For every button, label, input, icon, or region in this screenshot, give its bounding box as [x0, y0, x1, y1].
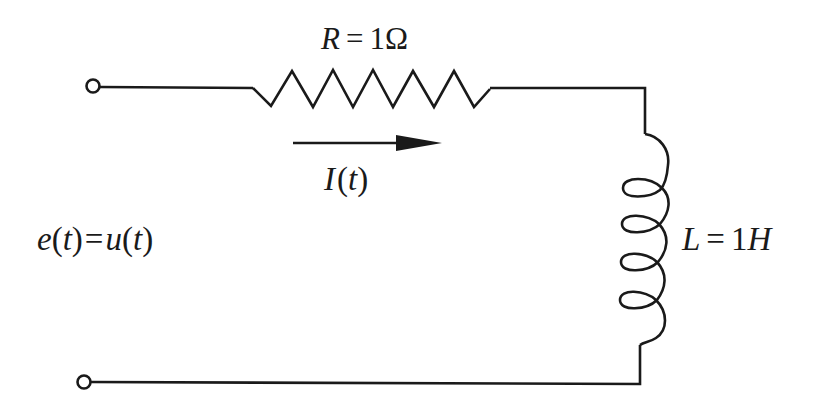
resistor-label: R=1Ω [320, 21, 408, 56]
current-label: I(t) [323, 161, 368, 198]
source-rhs-close: ) [142, 221, 153, 258]
inductor-symbol: L [681, 221, 700, 257]
inductor-value: 1 [731, 221, 748, 257]
current-open-paren: ( [337, 161, 348, 198]
inductor [620, 134, 669, 345]
top-left-wire [100, 87, 254, 88]
source-lhs-close: ) [72, 221, 83, 258]
resistor [253, 70, 490, 107]
circuit-diagram: R=1Ω I(t) e(t)=u(t) L=1H [0, 0, 817, 418]
source-label: e(t)=u(t) [37, 221, 153, 258]
current-arrow-head-icon [396, 135, 442, 151]
inductor-label: L=1H [681, 221, 773, 257]
source-lhs-open: ( [52, 221, 63, 258]
current-symbol: I [323, 161, 337, 197]
source-rhs-open: ( [122, 221, 133, 258]
current-close-paren: ) [357, 161, 368, 198]
resistor-symbol: R [320, 21, 340, 56]
resistor-unit: Ω [385, 21, 408, 56]
source-rhs-func: u [105, 221, 122, 257]
bottom-terminal [78, 376, 91, 389]
resistor-value: 1 [369, 21, 385, 56]
source-equals: = [85, 221, 104, 257]
resistor-equals: = [346, 21, 363, 56]
inductor-equals: = [706, 221, 725, 257]
source-lhs-func: e [37, 221, 52, 257]
bottom-wire [90, 345, 640, 384]
top-terminal [87, 80, 100, 93]
inductor-unit: H [746, 221, 773, 257]
top-right-wire [490, 88, 645, 134]
